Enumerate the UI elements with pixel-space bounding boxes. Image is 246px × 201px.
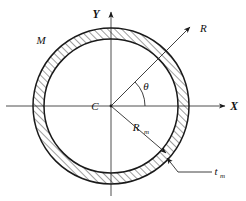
theta-label: θ	[143, 80, 149, 92]
hatch-pattern-fill	[0, 0, 246, 201]
thickness-label-subscript: m	[220, 172, 225, 180]
outer-radius-label-R: R	[199, 22, 207, 34]
x-axis-label: X	[229, 100, 238, 112]
mean-radius-label-R: R	[132, 121, 140, 133]
center-label-C: C	[91, 100, 99, 112]
mean-radius-label-subscript: m	[144, 128, 149, 136]
material-label-M: M	[35, 34, 46, 46]
center-point-marker	[110, 105, 113, 108]
y-axis-label: Y	[92, 8, 100, 20]
annulus-cross-section-figure: Y X C M R θ R m t m	[0, 0, 246, 201]
annular-wall-hatching	[0, 0, 246, 201]
diagram-canvas: Y X C M R θ R m t m	[0, 0, 246, 201]
